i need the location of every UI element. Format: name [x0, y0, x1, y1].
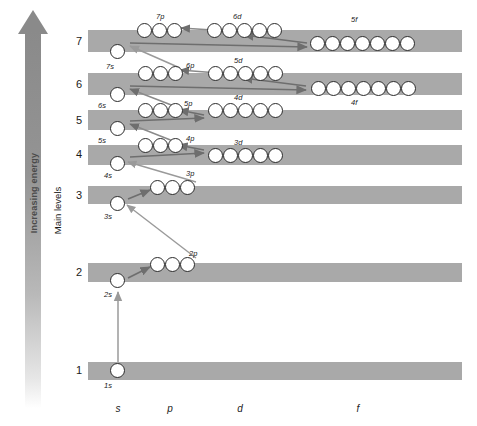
orbital-circle-3d-1: [208, 148, 223, 163]
orbital-circle-6p-2: [153, 66, 168, 81]
orbital-label-4f: 4f: [351, 98, 357, 107]
orbital-circle-4s: [110, 156, 125, 171]
orbital-circle-1s: [110, 363, 125, 378]
subshell-label-p: p: [160, 403, 180, 414]
orbital-circle-5f-3: [340, 36, 355, 51]
orbital-circle-5f-7: [400, 36, 415, 51]
orbital-circle-6d-5: [267, 23, 282, 38]
orbital-circle-4d-4: [253, 103, 268, 118]
orbital-circle-7s: [110, 44, 125, 59]
orbital-circle-4f-6: [386, 81, 401, 96]
orbital-label-5s: 5s: [98, 136, 106, 145]
orbital-circle-4p-2: [153, 138, 168, 153]
orbital-circle-4f-5: [371, 81, 386, 96]
orbital-label-7p: 7p: [156, 12, 164, 21]
orbital-label-3p: 3p: [186, 169, 194, 178]
orbital-circle-2s: [110, 273, 125, 288]
level-bar-2: [88, 263, 462, 282]
orbital-circle-3d-4: [253, 148, 268, 163]
increasing-energy-arrow: Increasing energy: [18, 8, 48, 408]
level-bar-3: [88, 186, 462, 204]
subshell-label-d: d: [230, 403, 250, 414]
orbital-circle-4f-4: [356, 81, 371, 96]
orbital-circle-6p-1: [138, 66, 153, 81]
orbital-circle-5f-1: [310, 36, 325, 51]
orbital-label-2p: 2p: [189, 249, 197, 258]
orbital-label-6s: 6s: [98, 101, 106, 110]
orbital-circle-4p-1: [138, 138, 153, 153]
orbital-circle-3p-1: [150, 180, 165, 195]
orbital-circle-5s: [110, 121, 125, 136]
orbital-circle-7p-3: [167, 23, 182, 38]
subshell-label-s: s: [108, 403, 128, 414]
orbital-circle-4f-1: [311, 81, 326, 96]
orbital-circle-3d-2: [223, 148, 238, 163]
orbital-circle-5p-3: [168, 103, 183, 118]
orbital-circle-2p-2: [165, 257, 180, 272]
orbital-circle-4p-3: [168, 138, 183, 153]
level-number-6: 6: [66, 78, 82, 90]
orbital-circle-4d-2: [223, 103, 238, 118]
orbital-circle-6d-2: [222, 23, 237, 38]
orbital-label-4p: 4p: [186, 134, 194, 143]
orbital-circle-3d-5: [268, 148, 283, 163]
level-number-1: 1: [66, 364, 82, 376]
orbital-label-4d: 4d: [234, 93, 242, 102]
subshell-label-f: f: [348, 403, 368, 414]
energy-axis-label: Increasing energy: [29, 133, 39, 253]
level-number-2: 2: [66, 266, 82, 278]
orbital-circle-5f-2: [325, 36, 340, 51]
orbital-circle-5f-6: [385, 36, 400, 51]
orbital-circle-5p-1: [138, 103, 153, 118]
orbital-label-5f: 5f: [351, 15, 357, 24]
level-number-7: 7: [66, 35, 82, 47]
orbital-label-5p: 5p: [184, 99, 192, 108]
orbital-circle-3p-2: [165, 180, 180, 195]
orbital-label-7s: 7s: [106, 62, 114, 71]
orbital-circle-3p-3: [180, 180, 195, 195]
orbital-circle-5d-5: [268, 66, 283, 81]
level-number-4: 4: [66, 148, 82, 160]
orbital-circle-2p-1: [150, 257, 165, 272]
orbital-circle-7p-1: [137, 23, 152, 38]
orbital-circle-3s: [110, 196, 125, 211]
orbital-circle-5f-5: [370, 36, 385, 51]
orbital-circle-4f-2: [326, 81, 341, 96]
orbital-circle-4d-5: [268, 103, 283, 118]
orbital-energy-diagram: Increasing energy Main levels 7 6 5 4 3 …: [0, 0, 477, 426]
orbital-circle-3d-3: [238, 148, 253, 163]
orbital-circle-5d-1: [208, 66, 223, 81]
orbital-circle-6d-4: [252, 23, 267, 38]
orbital-circle-6p-3: [168, 66, 183, 81]
level-number-3: 3: [66, 189, 82, 201]
orbital-circle-5f-4: [355, 36, 370, 51]
level-number-5: 5: [66, 114, 82, 126]
orbital-circle-5d-4: [253, 66, 268, 81]
orbital-label-5d: 5d: [234, 56, 242, 65]
orbital-circle-5d-3: [238, 66, 253, 81]
orbital-circle-4d-3: [238, 103, 253, 118]
orbital-circle-7p-2: [152, 23, 167, 38]
orbital-label-2s: 2s: [104, 290, 112, 299]
orbital-label-6d: 6d: [233, 12, 241, 21]
orbital-circle-6d-3: [237, 23, 252, 38]
orbital-circle-6d-1: [207, 23, 222, 38]
orbital-circle-6s: [110, 87, 125, 102]
orbital-label-3s: 3s: [104, 212, 112, 221]
orbital-label-1s: 1s: [104, 381, 112, 390]
orbital-circle-4f-3: [341, 81, 356, 96]
orbital-circle-5p-2: [153, 103, 168, 118]
orbital-label-3d: 3d: [234, 138, 242, 147]
orbital-circle-4f-7: [401, 81, 416, 96]
level-bar-1: [88, 362, 462, 380]
orbital-label-4s: 4s: [104, 171, 112, 180]
main-levels-axis-label: Main levels: [52, 166, 63, 256]
orbital-circle-5d-2: [223, 66, 238, 81]
orbital-circle-4d-1: [208, 103, 223, 118]
orbital-circle-2p-3: [180, 257, 195, 272]
orbital-label-6p: 6p: [186, 61, 194, 70]
